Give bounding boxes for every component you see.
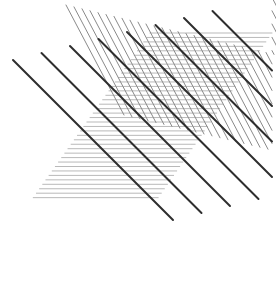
artwork-frame	[0, 0, 276, 292]
line-pattern-artwork	[0, 0, 276, 292]
